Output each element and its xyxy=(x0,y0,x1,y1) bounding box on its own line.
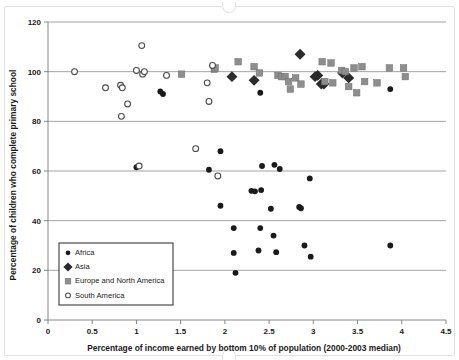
data-point-1-0 xyxy=(226,71,237,82)
data-point-2-14 xyxy=(322,78,329,85)
data-point-2-15 xyxy=(328,60,335,67)
x-tick-label-2: 1 xyxy=(134,327,139,336)
data-point-0-7 xyxy=(259,163,265,169)
data-point-2-10 xyxy=(287,86,294,93)
y-tick-label-6: 120 xyxy=(28,18,42,27)
data-point-3-4 xyxy=(118,113,124,119)
data-point-0-6 xyxy=(206,167,212,173)
data-point-3-3 xyxy=(119,85,125,91)
x-tick-label-9: 4.5 xyxy=(440,327,452,336)
y-axis-ticks: 020406080100120 xyxy=(28,18,48,325)
data-point-2-0 xyxy=(178,71,185,78)
data-point-0-13 xyxy=(258,187,264,193)
data-point-3-0 xyxy=(72,69,78,75)
data-point-0-27 xyxy=(233,270,239,276)
data-point-0-26 xyxy=(387,243,393,249)
data-point-0-2 xyxy=(257,90,263,96)
data-point-0-3 xyxy=(387,86,393,92)
data-point-2-18 xyxy=(342,68,349,75)
data-point-2-9 xyxy=(285,78,292,85)
data-point-3-12 xyxy=(210,63,216,69)
data-point-3-13 xyxy=(206,99,212,105)
gridlines xyxy=(48,22,446,270)
data-point-2-11 xyxy=(292,75,299,82)
x-tick-label-1: 0.5 xyxy=(87,327,99,336)
data-point-0-9 xyxy=(277,166,283,172)
legend-label-asia: Asia xyxy=(75,262,91,271)
x-tick-label-3: 1.5 xyxy=(175,327,187,336)
data-point-2-22 xyxy=(359,63,366,70)
legend-marker-south-america xyxy=(66,293,71,298)
y-tick-label-2: 40 xyxy=(32,217,41,226)
data-point-3-16 xyxy=(215,173,221,179)
data-point-3-5 xyxy=(125,101,131,107)
data-point-0-5 xyxy=(218,148,224,154)
x-tick-label-6: 3 xyxy=(311,327,316,336)
x-tick-label-4: 2 xyxy=(223,327,228,336)
data-point-0-22 xyxy=(256,248,262,254)
data-point-0-18 xyxy=(231,225,237,231)
data-point-2-5 xyxy=(256,70,263,77)
data-point-2-26 xyxy=(400,65,407,72)
data-point-2-27 xyxy=(402,73,409,80)
legend-marker-africa xyxy=(66,250,71,255)
data-point-3-7 xyxy=(139,43,145,49)
data-point-2-12 xyxy=(298,81,305,88)
data-point-2-25 xyxy=(386,65,393,72)
y-tick-label-0: 0 xyxy=(37,316,42,325)
data-point-2-13 xyxy=(319,58,326,65)
legend-label-south-america: South America xyxy=(75,291,125,300)
data-point-2-3 xyxy=(235,58,242,65)
data-point-3-6 xyxy=(134,68,140,74)
chart-legend: AfricaAsiaEurope and North AmericaSouth … xyxy=(59,243,173,305)
series-south-america xyxy=(72,43,221,179)
data-point-2-19 xyxy=(345,83,352,90)
data-point-2-21 xyxy=(353,90,360,97)
scatter-chart: 00.511.522.533.544.5 020406080100120 Afr… xyxy=(0,0,459,360)
data-point-3-15 xyxy=(136,163,142,169)
data-point-0-23 xyxy=(273,249,279,255)
data-point-0-8 xyxy=(272,162,278,168)
y-axis-title: Percentage of children who complete prim… xyxy=(8,70,18,281)
y-tick-label-4: 80 xyxy=(32,117,41,126)
x-tick-label-5: 2.5 xyxy=(264,327,276,336)
legend-label-africa: Africa xyxy=(75,248,95,257)
data-point-0-24 xyxy=(302,243,308,249)
data-point-0-17 xyxy=(298,205,304,211)
data-point-0-21 xyxy=(231,250,237,256)
data-point-0-10 xyxy=(307,176,313,182)
data-point-0-14 xyxy=(218,203,224,209)
data-points xyxy=(72,43,409,276)
data-point-3-10 xyxy=(164,72,170,78)
legend-label-europe-and-north-america: Europe and North America xyxy=(75,276,165,285)
data-point-0-12 xyxy=(252,188,258,194)
x-tick-label-0: 0 xyxy=(46,327,51,336)
data-point-2-20 xyxy=(351,65,358,72)
data-point-0-15 xyxy=(268,206,274,212)
x-axis-title: Percentage of income earned by bottom 10… xyxy=(87,343,401,353)
data-point-2-24 xyxy=(374,80,381,87)
data-point-2-23 xyxy=(361,78,368,85)
y-tick-label-5: 100 xyxy=(28,68,42,77)
data-point-1-2 xyxy=(295,49,306,60)
x-tick-label-8: 4 xyxy=(400,327,405,336)
data-point-3-11 xyxy=(204,80,210,86)
data-point-2-4 xyxy=(251,63,258,70)
data-point-2-16 xyxy=(330,80,337,87)
data-point-0-19 xyxy=(257,225,263,231)
data-point-0-20 xyxy=(271,233,277,239)
x-tick-label-7: 3.5 xyxy=(352,327,364,336)
data-point-0-25 xyxy=(308,254,314,260)
x-axis-ticks: 00.511.522.533.544.5 xyxy=(46,320,452,336)
data-point-3-1 xyxy=(103,85,109,91)
data-point-3-9 xyxy=(141,69,147,75)
legend-marker-europe-and-north-america xyxy=(65,278,71,284)
y-tick-label-1: 20 xyxy=(32,266,41,275)
data-point-3-14 xyxy=(193,146,199,152)
data-point-0-1 xyxy=(160,91,166,97)
data-point-1-1 xyxy=(249,75,260,86)
y-tick-label-3: 60 xyxy=(32,167,41,176)
